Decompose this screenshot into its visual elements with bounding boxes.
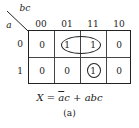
col-header-01: 01 (54, 19, 80, 29)
cell-0-00: 0 (29, 31, 55, 58)
group-circle (87, 63, 101, 78)
row-header-0: 0 (14, 39, 26, 49)
equation-plus: + (73, 92, 81, 103)
cell-1-10: 0 (106, 57, 132, 84)
equation-term1-rest: c (64, 92, 70, 103)
equation-term2: abc (85, 92, 103, 103)
col-header-11: 11 (80, 19, 106, 29)
cell-1-01: 0 (54, 57, 80, 84)
cell-1-00: 0 (29, 57, 55, 84)
equation-equals: = (47, 92, 55, 103)
figure-caption: (a) (0, 108, 139, 118)
equation-lhs: X (36, 92, 43, 103)
row-variable-label: a (4, 20, 14, 30)
col-header-10: 10 (106, 19, 132, 29)
group-ellipse (61, 36, 101, 54)
col-variable-label: bc (17, 3, 33, 13)
row-header-1: 1 (14, 66, 26, 76)
karnaugh-map-grid: 0 1 1 0 0 0 1 0 (28, 30, 131, 84)
cell-0-10: 0 (106, 31, 132, 58)
boolean-equation: X = ac + abc (0, 92, 139, 103)
col-header-00: 00 (28, 19, 54, 29)
